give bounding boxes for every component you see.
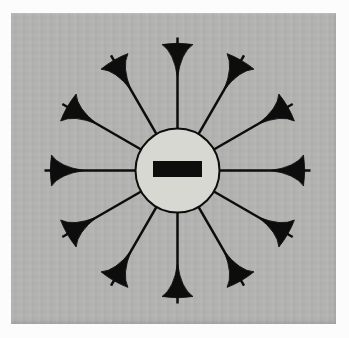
- minus-sign: [153, 161, 202, 177]
- field-arrowhead: [250, 204, 295, 248]
- field-arrowhead: [211, 53, 255, 98]
- field-arrowhead: [60, 204, 105, 248]
- field-arrowhead: [162, 264, 193, 298]
- field-arrowhead: [60, 93, 105, 137]
- field-arrowhead: [250, 93, 295, 137]
- figure-page: [0, 0, 349, 338]
- field-arrowhead: [211, 243, 255, 288]
- field-arrowhead: [100, 53, 144, 98]
- field-arrowhead: [100, 243, 144, 288]
- electric-field-diagram: [0, 0, 349, 338]
- field-arrowhead: [271, 155, 305, 186]
- field-arrowhead: [50, 155, 84, 186]
- field-arrowhead: [162, 43, 193, 77]
